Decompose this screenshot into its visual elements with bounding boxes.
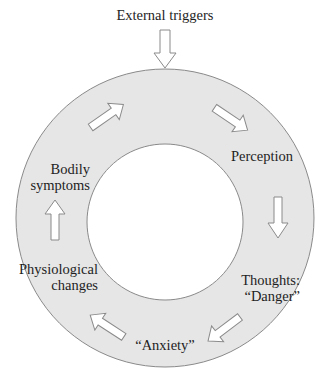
node-thoughts-line2: “Danger”	[238, 288, 300, 304]
node-bodily-line2: symptoms	[20, 177, 90, 193]
node-anxiety: “Anxiety”	[130, 337, 200, 353]
external-triggers-label: External triggers	[115, 7, 215, 23]
node-thoughts: Thoughts: “Danger”	[238, 272, 300, 304]
vicious-cycle-diagram	[0, 0, 330, 389]
external-trigger-arrow-icon	[154, 30, 176, 68]
node-bodily-symptoms: Bodily symptoms	[20, 161, 90, 193]
node-physiological-line1: Physiological	[18, 261, 98, 277]
node-physiological-changes: Physiological changes	[18, 261, 98, 293]
node-perception: Perception	[231, 148, 293, 164]
node-thoughts-line1: Thoughts:	[238, 272, 300, 288]
cycle-ring	[16, 69, 314, 367]
node-physiological-line2: changes	[18, 277, 98, 293]
node-bodily-line1: Bodily	[20, 161, 90, 177]
